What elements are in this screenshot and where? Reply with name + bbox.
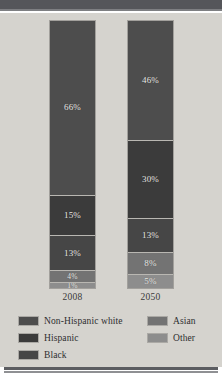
bar-segment-black[interactable]: 13% [128,219,173,254]
legend-swatch-icon [19,334,38,342]
bar-segment-non-hispanic-white[interactable]: 66% [50,21,95,196]
segment-value-label: 13% [64,249,81,258]
legend-item-black[interactable]: Black [19,347,123,363]
legend-label: Non-Hispanic white [44,316,123,326]
segment-value-label: 8% [144,259,156,268]
x-axis-label-2008: 2008 [50,292,95,302]
bar-segment-asian[interactable]: 4% [50,271,95,283]
stacked-bar-2008[interactable]: 66% 15% 13% 4% 1% [50,21,95,288]
bar-segment-asian[interactable]: 8% [128,253,173,275]
segment-value-label: 30% [142,175,159,184]
chart-legend: Non-Hispanic white Hispanic Black Asian [0,313,222,365]
segment-value-label: 13% [142,231,159,240]
legend-item-non-hispanic-white[interactable]: Non-Hispanic white [19,313,123,329]
bar-group-2008: 66% 15% 13% 4% 1% [50,21,95,288]
legend-label: Black [44,350,67,360]
segment-value-label: 4% [67,273,77,281]
top-decorative-band [0,0,222,9]
bar-segment-hispanic[interactable]: 30% [128,141,173,219]
legend-label: Asian [173,316,196,326]
legend-column-right: Asian Other [148,313,196,347]
bar-segment-other[interactable]: 5% [128,275,173,288]
legend-item-other[interactable]: Other [148,330,196,346]
legend-swatch-icon [19,317,38,325]
bar-segment-black[interactable]: 13% [50,236,95,271]
bar-segment-hispanic[interactable]: 15% [50,196,95,236]
top-band-shadow [0,9,222,11]
segment-value-label: 46% [142,76,159,85]
segment-value-label: 66% [64,103,81,112]
x-axis-label-2050: 2050 [128,292,173,302]
segment-value-label: 15% [64,211,81,220]
legend-label: Other [173,333,195,343]
figure-container: 66% 15% 13% 4% 1% 46% [0,0,222,387]
bottom-rule-secondary [4,371,218,373]
bar-segment-non-hispanic-white[interactable]: 46% [128,21,173,141]
legend-item-hispanic[interactable]: Hispanic [19,330,123,346]
plot-area: 66% 15% 13% 4% 1% 46% [0,13,222,367]
stacked-bar-2050[interactable]: 46% 30% 13% 8% 5% [128,21,173,288]
legend-swatch-icon [148,317,167,325]
segment-value-label: 5% [144,277,156,286]
legend-column-left: Non-Hispanic white Hispanic Black [19,313,123,364]
bar-segment-other[interactable]: 1% [50,283,95,288]
bar-group-2050: 46% 30% 13% 8% 5% [128,21,173,288]
legend-swatch-icon [19,351,38,359]
bottom-rule-primary [4,367,218,370]
legend-label: Hispanic [44,333,79,343]
segment-value-label: 1% [67,283,77,288]
legend-item-asian[interactable]: Asian [148,313,196,329]
legend-swatch-icon [148,334,167,342]
